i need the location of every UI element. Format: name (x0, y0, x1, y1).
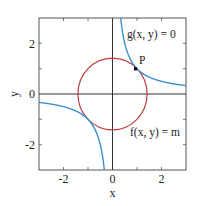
label-g-curve: g(x, y) = 0 (127, 28, 176, 41)
y-axis-title: y (7, 91, 21, 97)
y-tick-label: -2 (25, 138, 35, 152)
label-point-p: P (139, 54, 145, 66)
x-tick-label: 2 (159, 172, 165, 186)
hyperbola-branch-positive (120, 10, 191, 87)
y-tick-label: 0 (29, 87, 35, 101)
y-tick-label: 2 (29, 37, 35, 51)
hyperbola-branch-negative (34, 102, 105, 179)
point-p-marker (134, 67, 137, 70)
label-f-curve: f(x, y) = m (130, 126, 180, 139)
x-axis-title: x (110, 186, 116, 200)
chart: g(x, y) = 0 P f(x, y) = m -2 0 2 2 0 -2 … (0, 0, 198, 206)
x-tick-label: 0 (110, 172, 116, 186)
x-tick-label: -2 (59, 172, 69, 186)
